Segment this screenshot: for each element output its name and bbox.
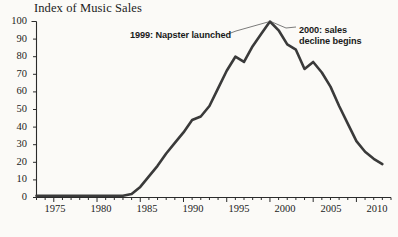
x-tick-label-2000: 2000 [265,203,305,214]
y-tick-marks [32,22,37,198]
x-tick-label-2005: 2005 [311,203,351,214]
y-tick-label-50: 50 [3,103,27,114]
y-tick-label-0: 0 [3,191,27,202]
x-tick-label-1980: 1980 [81,203,121,214]
y-tick-label-20: 20 [3,156,27,167]
y-tick-label-70: 70 [3,68,27,79]
napster-annotation-label: 1999: Napster launched [130,30,231,41]
music-sales-chart: Index of Music Sales 100 90 [0,0,398,237]
x-major-tick-marks [54,198,357,203]
y-tick-label-90: 90 [3,33,27,44]
music-sales-line [37,22,383,196]
x-tick-label-1975: 1975 [35,203,75,214]
y-tick-label-100: 100 [3,15,27,26]
x-tick-label-1990: 1990 [173,203,213,214]
x-tick-label-1995: 1995 [219,203,259,214]
decline-annotation-label: 2000: sales decline begins [299,25,361,47]
y-tick-label-10: 10 [3,173,27,184]
y-tick-label-40: 40 [3,121,27,132]
x-tick-label-2010: 2010 [357,203,397,214]
decline-annotation-line2: decline begins [299,36,361,47]
y-tick-label-80: 80 [3,50,27,61]
x-tick-label-1985: 1985 [127,203,167,214]
y-tick-label-30: 30 [3,138,27,149]
y-tick-label-60: 60 [3,85,27,96]
decline-annotation-line1: 2000: sales [299,25,361,36]
